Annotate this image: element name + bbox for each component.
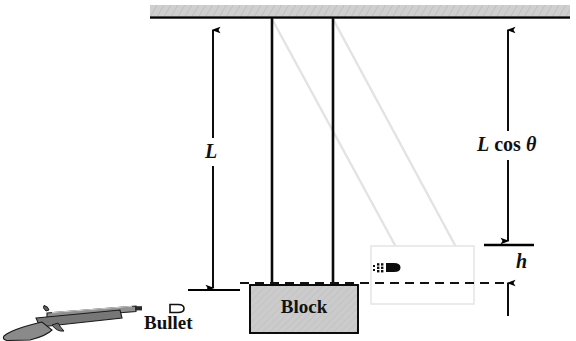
label-L-cos-theta-theta: θ bbox=[526, 133, 536, 155]
figure-canvas: L L cos θ h Block Bullet bbox=[0, 0, 576, 341]
label-block: Block bbox=[250, 296, 358, 318]
label-bullet: Bullet bbox=[144, 312, 193, 334]
string-line bbox=[272, 18, 333, 290]
label-L: L bbox=[205, 140, 217, 163]
diagram-svg bbox=[0, 0, 576, 341]
string-line-ghost bbox=[272, 19, 456, 247]
rifle-icon bbox=[3, 306, 142, 341]
block-ghost-shape bbox=[371, 246, 474, 304]
ceiling-hatch bbox=[150, 5, 570, 19]
label-L-cos-theta-cos: cos bbox=[494, 133, 521, 155]
label-h: h bbox=[516, 250, 527, 273]
bullet-in-flight-icon bbox=[373, 263, 401, 272]
label-L-cos-theta-L: L bbox=[477, 133, 489, 155]
label-L-cos-theta: L cos θ bbox=[477, 133, 536, 156]
